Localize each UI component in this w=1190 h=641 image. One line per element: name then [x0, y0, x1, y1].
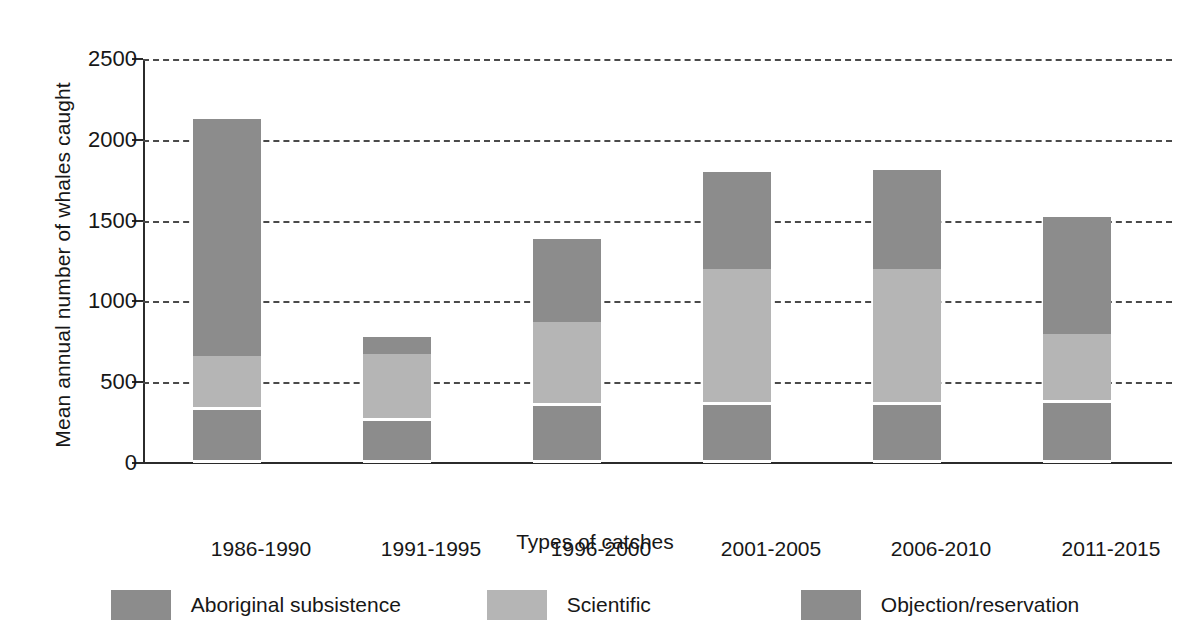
gridline-500	[143, 382, 1172, 384]
y-tick-label-2500: 2500	[17, 46, 137, 72]
bar-segment-1991-1995-objection-reservation[interactable]	[363, 337, 431, 354]
bar-segment-1996-2000-scientific[interactable]	[533, 322, 601, 406]
legend-label-scientific: Scientific	[567, 593, 651, 617]
bar-segment-2011-2015-objection-reservation[interactable]	[1043, 217, 1111, 333]
bar-segment-2011-2015-scientific[interactable]	[1043, 334, 1111, 403]
gridline-1500	[143, 221, 1172, 223]
legend-swatch-scientific	[487, 590, 547, 620]
bar-segment-2006-2010-objection-reservation[interactable]	[873, 170, 941, 269]
bar-segment-2006-2010-aboriginal-subsistence[interactable]	[873, 405, 941, 463]
bar-segment-2001-2005-objection-reservation[interactable]	[703, 172, 771, 269]
bar-segment-1991-1995-aboriginal-subsistence[interactable]	[363, 421, 431, 463]
bar-segment-1986-1990-scientific[interactable]	[193, 356, 261, 409]
y-tick-label-1000: 1000	[17, 288, 137, 314]
y-tick-label-0: 0	[17, 450, 137, 476]
gridline-1000	[143, 301, 1172, 303]
bar-segment-2006-2010-scientific[interactable]	[873, 269, 941, 405]
bar-segment-1986-1990-objection-reservation[interactable]	[193, 119, 261, 357]
gridline-2500	[143, 59, 1172, 61]
bar-segment-1991-1995-scientific[interactable]	[363, 354, 431, 421]
bar-segment-1986-1990-aboriginal-subsistence[interactable]	[193, 410, 261, 463]
y-axis-title: Mean annual number of whales caught	[51, 55, 75, 475]
bar-segment-1996-2000-aboriginal-subsistence[interactable]	[533, 406, 601, 463]
legend-swatch-aboriginal-subsistence	[111, 590, 171, 620]
whale-catch-stacked-bar-chart: Mean annual number of whales caught 0500…	[0, 0, 1190, 641]
legend-item-aboriginal-subsistence[interactable]: Aboriginal subsistence	[111, 590, 401, 620]
legend-label-aboriginal-subsistence: Aboriginal subsistence	[191, 593, 401, 617]
legend-item-scientific[interactable]: Scientific	[487, 590, 651, 620]
legend-item-objection-reservation[interactable]: Objection/reservation	[801, 590, 1079, 620]
y-tick-label-2000: 2000	[17, 127, 137, 153]
x-axis-title: Types of catches	[0, 530, 1190, 554]
bar-segment-2001-2005-aboriginal-subsistence[interactable]	[703, 405, 771, 463]
legend-label-objection-reservation: Objection/reservation	[881, 593, 1079, 617]
bar-segment-1996-2000-objection-reservation[interactable]	[533, 239, 601, 322]
bar-segment-2001-2005-scientific[interactable]	[703, 269, 771, 405]
gridline-2000	[143, 140, 1172, 142]
y-tick-label-1500: 1500	[17, 208, 137, 234]
plot-area: 05001000150020002500 1986-19901991-19951…	[143, 59, 1172, 463]
legend-swatch-objection-reservation	[801, 590, 861, 620]
chart-legend: Aboriginal subsistenceScientificObjectio…	[0, 590, 1190, 620]
bar-segment-2011-2015-aboriginal-subsistence[interactable]	[1043, 403, 1111, 463]
y-tick-label-500: 500	[17, 369, 137, 395]
